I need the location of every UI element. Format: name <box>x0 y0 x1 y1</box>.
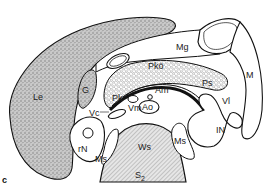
label-mesogastrium: Mg <box>176 42 189 52</box>
vena-mesenterica-shape <box>128 96 138 103</box>
label-muscle-left: Ms <box>95 154 107 164</box>
label-aorta-branch: Am <box>155 85 169 95</box>
label-pancreas-body: Pkö <box>148 61 164 71</box>
label-intestine: IN <box>216 125 225 135</box>
label-vena-lienalis: Vl <box>222 96 230 106</box>
label-gallbladder: G <box>82 85 89 95</box>
panel-letter: c <box>2 175 7 185</box>
label-aorta: Ao <box>142 102 153 112</box>
aorta-branch-shape <box>148 95 153 100</box>
label-vena-mesenterica: Vm <box>128 103 142 113</box>
label-liver: Le <box>33 92 43 102</box>
label-pancreas: Pk <box>112 93 123 103</box>
label-vena-cava: Vc <box>89 108 100 118</box>
label-kidney: rN <box>78 144 88 154</box>
label-muscle-right: Ms <box>174 136 186 146</box>
label-vertebra: Ws <box>138 142 151 152</box>
label-pancreas-tail: Ps <box>202 78 213 88</box>
anatomy-diagram: Le G Mg M Pkö Pk Ps Am Ao Vm Vc Vl IN rN… <box>0 0 268 187</box>
label-stomach: M <box>246 70 254 80</box>
